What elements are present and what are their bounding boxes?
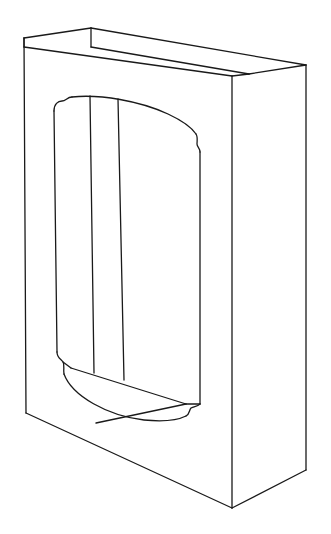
isometric-block-drawing (0, 0, 331, 534)
right-side-face (232, 65, 306, 508)
drawing-canvas: Isometric line drawing Rectangular block… (0, 0, 331, 534)
